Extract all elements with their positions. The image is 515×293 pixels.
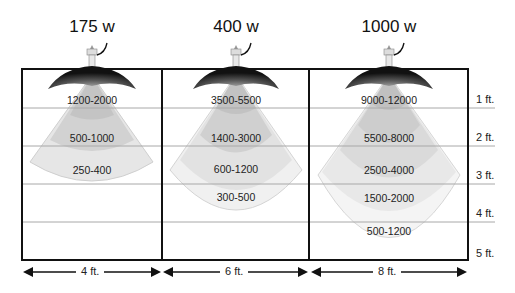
width-label-4ft: 4 ft. [76,265,104,277]
zone-label-400w-4: 300-500 [196,191,276,203]
wattage-title-400w: 400 w [186,17,286,37]
distance-label-3ft: 3 ft. [476,169,494,181]
zone-label-1000w-1: 9000-12000 [349,94,429,106]
zone-label-1000w-2: 5500-8000 [349,132,429,144]
zone-label-1000w-5: 500-1200 [349,225,429,237]
width-label-8ft: 8 ft. [373,265,401,277]
wattage-title-1000w: 1000 w [339,17,439,37]
zone-label-175w-2: 500-1000 [52,132,132,144]
zone-label-1000w-4: 1500-2000 [349,192,429,204]
zone-label-175w-3: 250-400 [52,164,132,176]
lamp-1000w-icon [345,43,433,89]
distance-label-5ft: 5 ft. [476,247,494,259]
lamp-175w-icon [48,43,136,89]
zone-label-1000w-3: 2500-4000 [349,164,429,176]
zone-label-400w-1: 3500-5500 [196,94,276,106]
diagram-canvas [0,0,515,293]
zone-label-175w-1: 1200-2000 [52,94,132,106]
wattage-title-175w: 175 w [42,17,142,37]
lamp-400w-icon [193,43,279,89]
distance-label-2ft: 2 ft. [476,131,494,143]
distance-label-4ft: 4 ft. [476,207,494,219]
zone-label-400w-3: 600-1200 [196,163,276,175]
zone-label-400w-2: 1400-3000 [196,132,276,144]
width-label-6ft: 6 ft. [220,265,248,277]
distance-label-1ft: 1 ft. [476,93,494,105]
